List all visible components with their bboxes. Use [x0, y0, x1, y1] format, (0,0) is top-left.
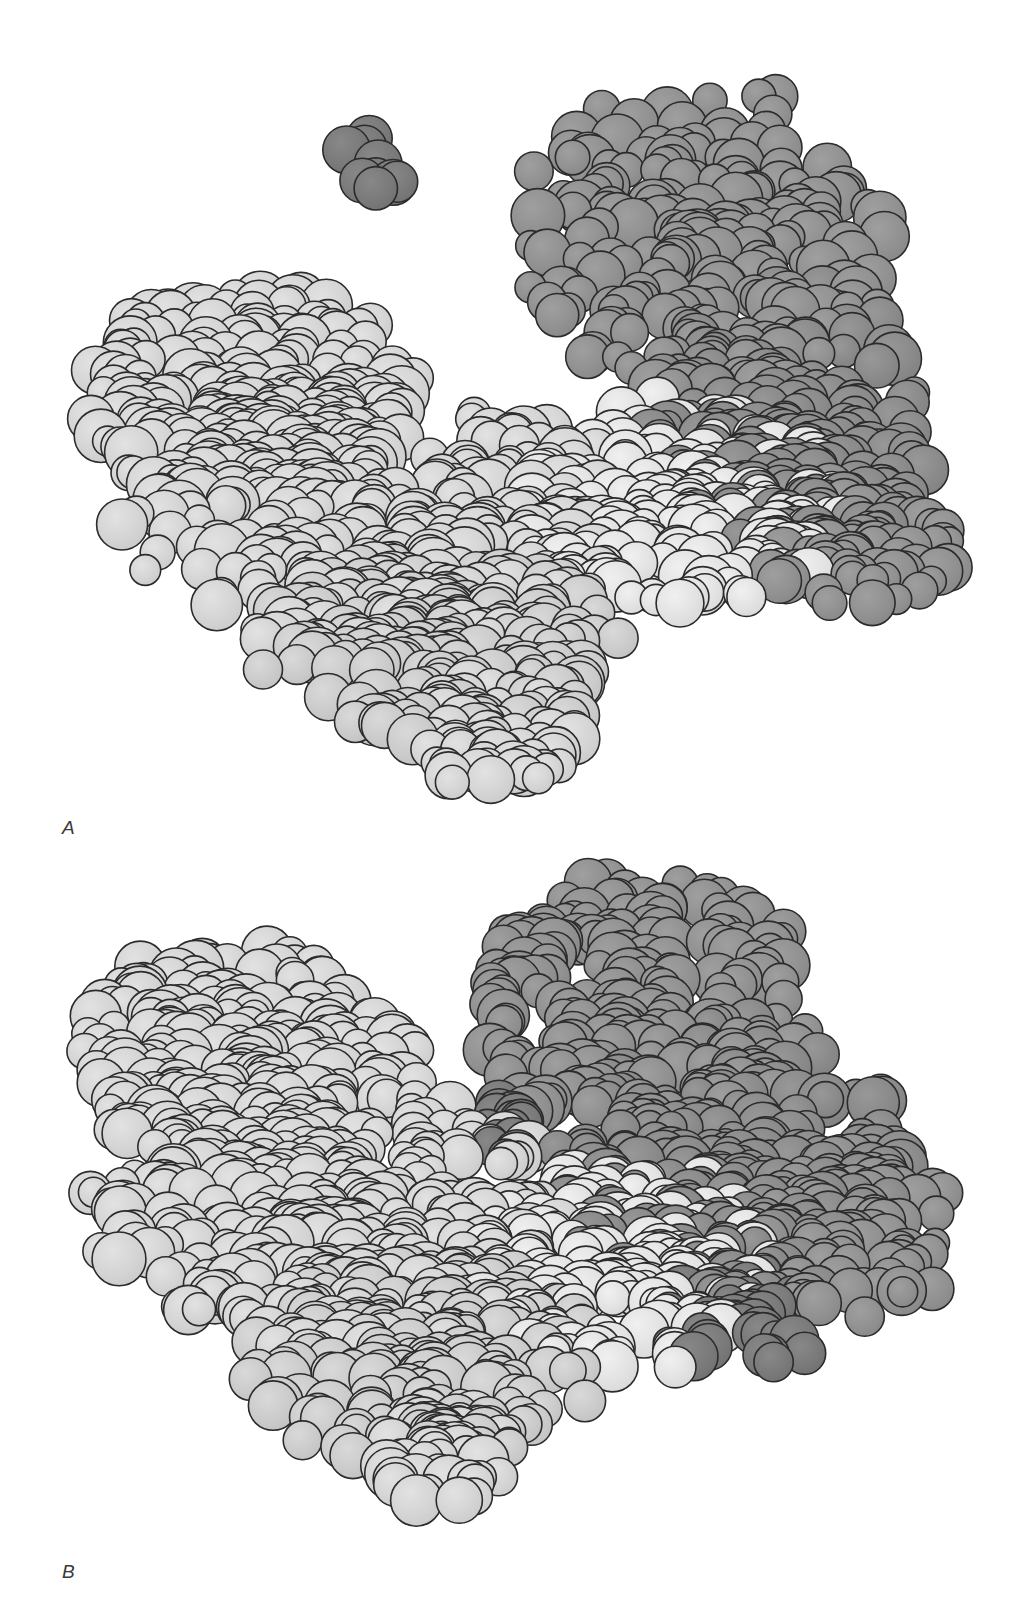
panel-b-molecule — [0, 840, 1019, 1624]
atom-sphere — [485, 1147, 517, 1179]
atom-sphere — [467, 756, 515, 804]
atom-sphere — [183, 1293, 216, 1326]
atom-sphere — [812, 586, 847, 621]
atom-layer — [67, 859, 963, 1527]
atom-sphere — [656, 579, 704, 627]
panel-a-label: A — [62, 818, 75, 837]
atom-sphere — [850, 580, 896, 626]
atom-sphere — [92, 1232, 146, 1286]
panel-a-molecule — [0, 0, 1019, 840]
atom-sphere — [435, 765, 469, 799]
atom-layer — [68, 75, 973, 804]
atom-sphere — [523, 763, 554, 794]
atom-sphere — [515, 152, 554, 191]
atom-sphere — [354, 167, 397, 210]
atom-sphere — [596, 1281, 630, 1315]
atom-sphere — [536, 294, 579, 337]
molecule-svg — [0, 840, 1019, 1624]
atom-sphere — [436, 1477, 482, 1523]
panel-b: B — [0, 840, 1019, 1624]
atom-sphere — [564, 1380, 606, 1422]
molecule-svg — [0, 0, 1019, 840]
atom-sphere — [97, 499, 148, 550]
atom-sphere — [283, 1421, 322, 1460]
atom-sphere — [391, 1475, 442, 1526]
atom-sphere — [277, 645, 317, 685]
panel-a: A — [0, 0, 1019, 840]
atom-sphere — [654, 1346, 696, 1388]
atom-sphere — [754, 1342, 793, 1381]
atom-sphere — [919, 1196, 954, 1231]
figure-root: A B — [0, 0, 1019, 1624]
atom-sphere — [888, 1277, 918, 1307]
atom-sphere — [191, 579, 242, 630]
atom-sphere — [555, 140, 590, 175]
atom-sphere — [845, 1297, 884, 1336]
atom-sphere — [244, 650, 283, 689]
atom-sphere — [727, 578, 766, 617]
atom-sphere — [598, 618, 638, 658]
panel-b-label: B — [62, 1562, 75, 1581]
atom-sphere — [130, 555, 161, 586]
